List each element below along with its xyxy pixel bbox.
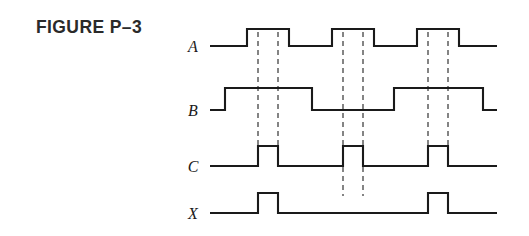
waveform-trace-a <box>210 29 497 46</box>
timing-diagram-figure: FIGURE P–3 ABCX <box>0 0 529 236</box>
signal-label-a: A <box>187 38 198 55</box>
waveform-trace-c <box>210 146 497 166</box>
signal-label-c: C <box>188 158 199 175</box>
signal-label-b: B <box>188 102 198 119</box>
waveform-trace-x <box>210 193 497 213</box>
timing-waveform-canvas: ABCX <box>0 0 529 236</box>
waveform-traces-group <box>210 29 497 213</box>
marker-lines-group <box>258 32 448 196</box>
signal-labels-group: ABCX <box>187 38 199 222</box>
waveform-trace-b <box>210 88 497 110</box>
signal-label-x: X <box>187 205 199 222</box>
